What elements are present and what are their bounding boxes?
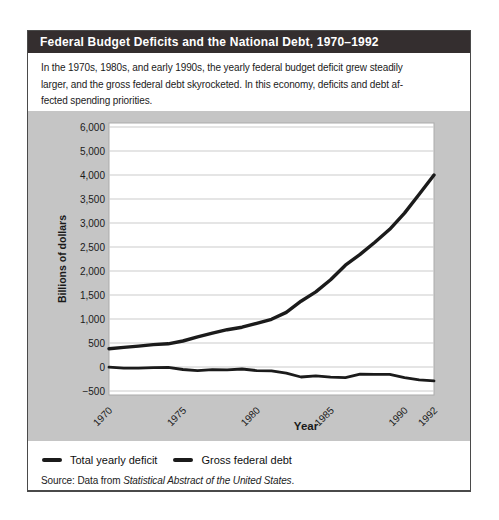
y-tick-label: 2,000 [80,266,105,277]
chart-panel: 6,0005,0004,0003,5003,0002,5002,0001,500… [28,111,470,441]
debt-line-swatch-icon [173,458,193,462]
intro-line: In the 1970s, 1980s, and early 1990s, th… [41,60,460,77]
figure-intro: In the 1970s, 1980s, and early 1990s, th… [28,53,470,111]
plot-area [109,123,434,395]
x-tick-label: 1970 [91,404,115,428]
x-tick-label: 1975 [165,404,189,428]
deficit-line-swatch-icon [42,458,62,462]
y-tick-label: 0 [99,362,105,373]
source-prefix: Source: Data from [41,475,123,486]
y-tick-label: 1,000 [80,314,105,325]
chart-legend: Total yearly deficit Gross federal debt [28,441,470,469]
figure-title: Federal Budget Deficits and the National… [28,31,470,53]
intro-line: larger, and the gross federal debt skyro… [41,77,460,94]
y-axis-title: Billions of dollars [56,215,68,303]
legend-item-gross-federal-debt: Gross federal debt [173,454,292,466]
source-suffix: . [292,475,295,486]
y-tick-label: 1,500 [80,290,105,301]
legend-label: Gross federal debt [201,454,292,466]
source-citation: Statistical Abstract of the United State… [123,475,291,486]
y-tick-label: −500 [82,386,105,397]
y-tick-label: 500 [88,338,105,349]
y-tick-label: 6,000 [80,122,105,133]
y-tick-label: 3,000 [80,218,105,229]
intro-line: fected spending priorities. [41,93,460,110]
y-tick-label: 4,000 [80,170,105,181]
x-tick-label: 1980 [239,404,263,428]
y-tick-label: 3,500 [80,194,105,205]
x-axis-title: Year [294,420,319,432]
y-tick-label: 2,500 [80,242,105,253]
x-tick-label: 1990 [386,404,410,428]
source-note: Source: Data from Statistical Abstract o… [28,469,470,486]
x-tick-label: 1992 [416,404,440,428]
legend-label: Total yearly deficit [70,454,157,466]
deficit-debt-line-chart: 6,0005,0004,0003,5003,0002,5002,0001,500… [28,111,469,441]
y-tick-label: 5,000 [80,146,105,157]
legend-item-total-yearly-deficit: Total yearly deficit [42,454,157,466]
figure-box: Federal Budget Deficits and the National… [27,30,471,492]
